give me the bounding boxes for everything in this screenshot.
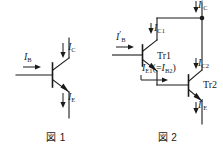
figure-1: IB IC IE 図 1 xyxy=(0,0,112,150)
label-output-emitter-current: I′E xyxy=(198,100,207,110)
figure-2-circuit-drawing xyxy=(112,0,223,150)
figure-1-circuit-drawing xyxy=(0,0,112,150)
base-current-arrow xyxy=(23,64,41,69)
collector-current-arrow xyxy=(60,43,65,58)
figure-1-caption: 図 1 xyxy=(0,129,112,144)
label-emitter-current-fig1: IE xyxy=(68,92,75,102)
label-collector-current-fig1: IC xyxy=(68,42,76,52)
figure-2-caption: 図 2 xyxy=(112,129,223,144)
label-output-collector-current: I′C xyxy=(198,0,208,10)
label-tr1-collector-current: IC1 xyxy=(154,23,165,33)
label-tr2-collector-current: IC2 xyxy=(198,58,209,68)
tr2-collector-slant-line xyxy=(189,70,202,81)
base-current-arrow-fig2 xyxy=(116,44,134,49)
tr1-collector-current-arrow xyxy=(148,23,153,34)
collector-junction-dot xyxy=(200,16,205,21)
collector-slant-line xyxy=(53,58,69,70)
label-base-current-fig2: I′B xyxy=(116,32,126,42)
label-tr2-name: Tr2 xyxy=(203,79,217,90)
label-base-current-fig1: IB xyxy=(24,52,32,62)
tr1-collector-slant-line xyxy=(143,40,157,51)
figure-pair-diagram: IB IC IE 図 1 xyxy=(0,0,223,150)
label-tr1-emitter-current: IE1(=IB2) xyxy=(142,63,176,73)
tr1-emitter-current-arrow xyxy=(141,75,168,83)
label-tr1-name: Tr1 xyxy=(157,50,171,61)
emitter-current-arrow xyxy=(60,93,65,108)
figure-2: I′B I′C IC1 Tr1 IE1(=IB2) IC2 Tr2 I′E 図 … xyxy=(112,0,223,150)
